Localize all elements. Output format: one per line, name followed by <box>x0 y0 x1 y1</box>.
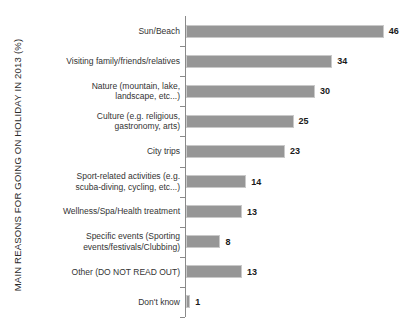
bar-row: City trips23 <box>34 136 401 166</box>
bar-container: 8 <box>186 227 230 257</box>
plot-area: Sun/Beach46Visiting family/friends/relat… <box>34 14 401 319</box>
bar-row: Sport-related activities (e.g.scuba-divi… <box>34 167 401 197</box>
bar-container: 13 <box>186 257 257 287</box>
bar-value-label: 13 <box>247 267 257 277</box>
bar-row: Nature (mountain, lake,landscape, etc...… <box>34 76 401 106</box>
bar-rows-container: Sun/Beach46Visiting family/friends/relat… <box>34 16 401 317</box>
category-label: Nature (mountain, lake,landscape, etc...… <box>34 81 180 102</box>
bar-value-label: 23 <box>290 146 300 156</box>
bar-value-label: 13 <box>247 207 257 217</box>
bar-row: Wellness/Spa/Health treatment13 <box>34 197 401 227</box>
bar <box>186 235 220 248</box>
y-axis-title-container: MAIN REASONS FOR GOING ON HOLIDAY IN 201… <box>0 0 34 330</box>
bar <box>186 85 315 98</box>
bar-value-label: 25 <box>299 116 309 126</box>
category-label: Don't know <box>34 297 180 308</box>
category-label: Sun/Beach <box>34 26 180 37</box>
bar <box>186 115 294 128</box>
bar-value-label: 30 <box>320 86 330 96</box>
bar-container: 30 <box>186 76 330 106</box>
bar-container: 13 <box>186 197 257 227</box>
axis-tick <box>180 317 185 318</box>
category-label: Culture (e.g. religious,gastronomy, arts… <box>34 111 180 132</box>
bar-row: Sun/Beach46 <box>34 16 401 46</box>
bar-value-label: 46 <box>389 26 399 36</box>
bar-row: Specific events (Sportingevents/festival… <box>34 227 401 257</box>
bar <box>186 145 285 158</box>
category-label: Other (DO NOT READ OUT) <box>34 267 180 278</box>
bar-row: Visiting family/friends/relatives34 <box>34 46 401 76</box>
bar-container: 23 <box>186 136 300 166</box>
bar <box>186 55 332 68</box>
bar-value-label: 14 <box>251 177 261 187</box>
bar-container: 14 <box>186 167 261 197</box>
bar <box>186 175 246 188</box>
category-label: Sport-related activities (e.g.scuba-divi… <box>34 171 180 192</box>
bar-container: 1 <box>186 287 200 317</box>
y-axis-title: MAIN REASONS FOR GOING ON HOLIDAY IN 201… <box>12 39 23 292</box>
bar <box>186 205 242 218</box>
bar-container: 34 <box>186 46 347 76</box>
bar-container: 25 <box>186 106 309 136</box>
category-label: Visiting family/friends/relatives <box>34 56 180 67</box>
bar <box>186 295 190 308</box>
category-label: City trips <box>34 146 180 157</box>
bar-container: 46 <box>186 16 399 46</box>
bar-row: Don't know1 <box>34 287 401 317</box>
bar <box>186 25 384 38</box>
bar-value-label: 1 <box>195 297 200 307</box>
bar-value-label: 8 <box>225 237 230 247</box>
bar-chart: MAIN REASONS FOR GOING ON HOLIDAY IN 201… <box>0 0 401 330</box>
bar <box>186 265 242 278</box>
bar-row: Other (DO NOT READ OUT)13 <box>34 257 401 287</box>
bar-row: Culture (e.g. religious,gastronomy, arts… <box>34 106 401 136</box>
category-label: Wellness/Spa/Health treatment <box>34 206 180 217</box>
bar-value-label: 34 <box>337 56 347 66</box>
category-label: Specific events (Sportingevents/festival… <box>34 231 180 252</box>
